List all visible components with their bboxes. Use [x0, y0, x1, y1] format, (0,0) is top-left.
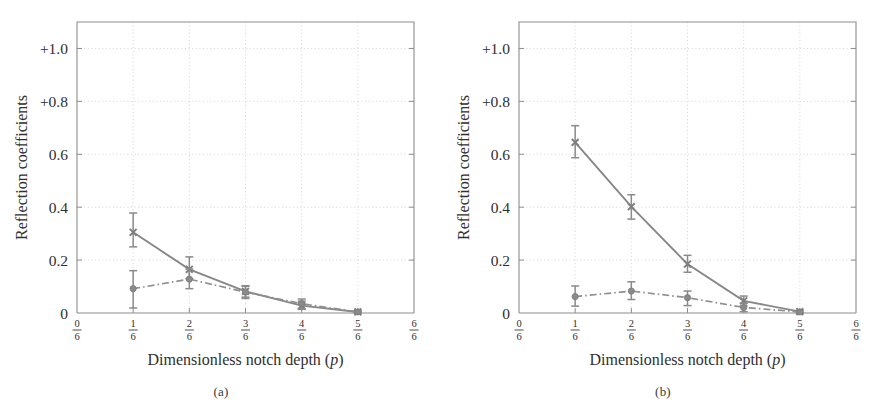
data-point-marker-circle	[572, 293, 578, 299]
y-tick-label: +0.8	[40, 93, 68, 110]
x-tick-label-fraction: 56	[353, 318, 362, 342]
y-tick-label: +0.8	[482, 93, 510, 110]
fraction-numerator: 0	[74, 318, 79, 329]
fraction-numerator: 4	[299, 318, 305, 329]
data-point-marker-circle	[741, 304, 747, 310]
data-point-marker-circle	[242, 289, 248, 295]
data-point-marker-circle	[628, 288, 634, 294]
x-tick-label-fraction: 36	[241, 318, 250, 342]
fraction-denominator: 6	[355, 331, 360, 342]
fraction-denominator: 6	[74, 331, 79, 342]
fraction-denominator: 6	[797, 331, 802, 342]
fraction-denominator: 6	[411, 331, 416, 342]
x-axis-label-main: Dimensionless notch depth	[590, 351, 767, 369]
fraction-denominator: 6	[853, 331, 858, 342]
x-axis-label: Dimensionless notch depth (p)	[590, 351, 786, 369]
x-tick-label-fraction: 66	[852, 318, 861, 342]
x-tick-label-fraction: 36	[683, 318, 692, 342]
fraction-numerator: 1	[573, 318, 578, 329]
y-tick-label: 0.2	[491, 252, 510, 269]
fraction-numerator: 2	[187, 318, 192, 329]
y-tick-label: 0	[60, 305, 68, 322]
fraction-denominator: 6	[629, 331, 634, 342]
fraction-denominator: 6	[573, 331, 578, 342]
fraction-denominator: 6	[243, 331, 248, 342]
x-tick-label-fraction: 16	[571, 318, 580, 342]
data-point-marker-circle	[186, 276, 192, 282]
data-point-marker-circle	[797, 309, 803, 315]
x-axis-label-paren-close: )	[780, 351, 785, 369]
fraction-numerator: 2	[629, 318, 634, 329]
x-tick-label-fraction: 16	[129, 318, 138, 342]
y-tick-label: 0.2	[49, 252, 68, 269]
x-axis-label-symbol: p	[329, 351, 338, 369]
x-tick-label-fraction: 06	[515, 318, 524, 342]
fraction-numerator: 4	[741, 318, 747, 329]
fraction-denominator: 6	[299, 331, 304, 342]
fraction-denominator: 6	[131, 331, 136, 342]
fraction-denominator: 6	[741, 331, 746, 342]
x-tick-label-fraction: 66	[410, 318, 419, 342]
y-tick-label: 0.4	[491, 199, 511, 216]
figure-two-panel-chart: +1.0+0.80.60.40.2006162636465666Dimensio…	[0, 0, 885, 414]
y-tick-label: 0.6	[49, 146, 69, 163]
x-axis-label-main: Dimensionless notch depth	[148, 351, 325, 369]
fraction-numerator: 0	[516, 318, 521, 329]
x-tick-label-fraction: 46	[739, 318, 748, 342]
y-tick-label: 0	[502, 305, 510, 322]
panel-b-caption: (b)	[442, 384, 884, 400]
fraction-numerator: 5	[797, 318, 802, 329]
y-tick-label: +1.0	[40, 40, 68, 57]
fraction-numerator: 6	[853, 318, 858, 329]
x-tick-label-fraction: 46	[297, 318, 306, 342]
data-point-marker-circle	[130, 286, 136, 292]
fraction-numerator: 1	[131, 318, 136, 329]
fraction-numerator: 3	[685, 318, 690, 329]
x-tick-label-fraction: 06	[73, 318, 82, 342]
y-tick-label: 0.6	[491, 146, 511, 163]
fraction-numerator: 6	[411, 318, 416, 329]
x-axis-label-paren-close: )	[338, 351, 343, 369]
panel-a-caption: (a)	[0, 384, 442, 400]
y-axis-label: Reflection coefficients	[13, 95, 30, 240]
panel-b-plot: +1.0+0.80.60.40.2006162636465666Dimensio…	[442, 0, 884, 414]
data-point-marker-circle	[299, 301, 305, 307]
x-tick-label-fraction: 26	[185, 318, 194, 342]
fraction-numerator: 5	[355, 318, 360, 329]
data-point-marker-circle	[355, 309, 361, 315]
x-tick-label-fraction: 26	[627, 318, 636, 342]
fraction-denominator: 6	[187, 331, 192, 342]
fraction-numerator: 3	[243, 318, 248, 329]
fraction-denominator: 6	[685, 331, 690, 342]
x-tick-label-fraction: 56	[795, 318, 804, 342]
x-axis-label-symbol: p	[771, 351, 780, 369]
data-point-marker-circle	[684, 295, 690, 301]
fraction-denominator: 6	[516, 331, 521, 342]
series-line-solid-line-series	[575, 142, 800, 311]
panel-a-plot: +1.0+0.80.60.40.2006162636465666Dimensio…	[0, 0, 442, 414]
panel-a: +1.0+0.80.60.40.2006162636465666Dimensio…	[0, 0, 442, 414]
panel-b: +1.0+0.80.60.40.2006162636465666Dimensio…	[442, 0, 884, 414]
y-axis-label: Reflection coefficients	[455, 95, 472, 240]
x-axis-label: Dimensionless notch depth (p)	[148, 351, 344, 369]
y-tick-label: +1.0	[482, 40, 510, 57]
y-tick-label: 0.4	[49, 199, 69, 216]
